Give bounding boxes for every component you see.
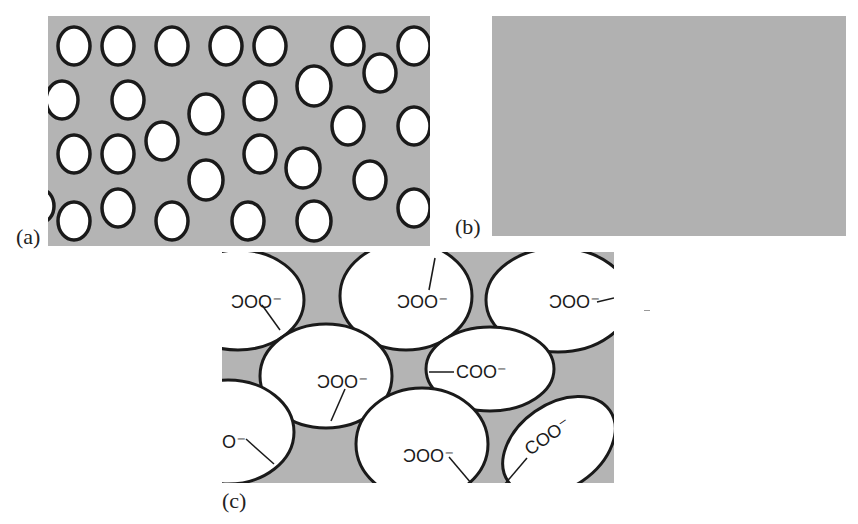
particle-dispersion-diagram [48,16,430,246]
panel-label-c: (c) [222,488,246,514]
carboxylate-label: COO⁻ [456,362,507,382]
carboxylate-label: ⁻OOC [397,292,448,312]
carboxylate-label: ⁻OOC [317,372,368,392]
panel-b [492,16,846,236]
panel-a [48,16,430,246]
panel-label-b: (b) [455,214,481,240]
stray-mark [644,310,650,311]
carboxylate-particle-diagram: ⁻OOC ⁻OOC ⁻OOC ⁻OOC COO⁻ ⁻OOC ⁻OOC COO⁻ [222,252,614,483]
panel-label-a: (a) [16,224,40,250]
carboxylate-label: ⁻OOC [231,292,282,312]
carboxylate-label: ⁻OOC [403,446,454,466]
carboxylate-label: ⁻OOC [222,432,246,452]
carboxylate-label: ⁻OOC [549,292,600,312]
panel-c: ⁻OOC ⁻OOC ⁻OOC ⁻OOC COO⁻ ⁻OOC ⁻OOC COO⁻ [222,252,614,483]
